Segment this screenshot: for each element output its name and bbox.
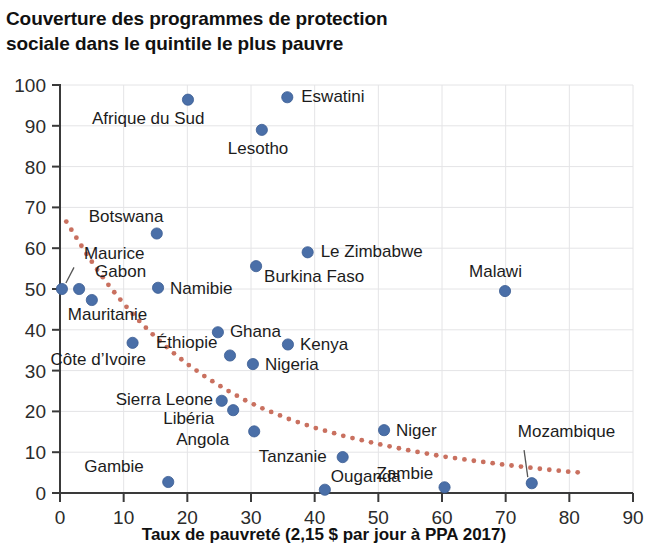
data-point-label: Botswana bbox=[89, 207, 164, 226]
trend-line-dot bbox=[369, 440, 374, 445]
trend-line-dot bbox=[415, 449, 420, 454]
trend-line-dot bbox=[286, 417, 291, 422]
data-point-marker[interactable] bbox=[282, 339, 293, 350]
data-point-marker[interactable] bbox=[182, 94, 193, 105]
y-tick-label: 40 bbox=[25, 320, 46, 341]
trend-line-dot bbox=[424, 451, 429, 456]
trend-line bbox=[64, 219, 580, 475]
trend-line-dot bbox=[194, 368, 199, 373]
data-point-marker[interactable] bbox=[127, 337, 138, 348]
trend-line-dot bbox=[471, 458, 476, 463]
trend-line-dot bbox=[462, 457, 467, 462]
y-tick-label: 30 bbox=[25, 361, 46, 382]
data-point-marker[interactable] bbox=[337, 451, 348, 462]
data-point-marker[interactable] bbox=[247, 358, 258, 369]
data-point-label: Lesotho bbox=[228, 139, 289, 158]
trend-line-dot bbox=[124, 304, 129, 309]
trend-line-dot bbox=[566, 469, 571, 474]
trend-line-dot bbox=[89, 259, 94, 264]
trend-line-dot bbox=[150, 332, 155, 337]
data-point-marker[interactable] bbox=[216, 395, 227, 406]
trend-line-dot bbox=[64, 219, 69, 224]
page-title: Couverture des programmes de protection … bbox=[6, 6, 546, 57]
trend-line-dot bbox=[164, 345, 169, 350]
trend-line-dot bbox=[234, 393, 239, 398]
trend-line-dot bbox=[143, 325, 148, 330]
trend-line-dot bbox=[378, 442, 383, 447]
data-point-marker[interactable] bbox=[249, 426, 260, 437]
data-point-marker[interactable] bbox=[152, 282, 163, 293]
trend-line-dot bbox=[95, 267, 100, 272]
data-point-marker[interactable] bbox=[499, 285, 510, 296]
data-point-label: Ouganda bbox=[331, 467, 401, 486]
data-point-marker[interactable] bbox=[56, 283, 67, 294]
data-point-label: Mozambique bbox=[518, 422, 615, 441]
data-point-marker[interactable] bbox=[256, 124, 267, 135]
trend-line-dot bbox=[186, 363, 191, 368]
trend-line-dot bbox=[210, 379, 215, 384]
trend-line-dot bbox=[157, 338, 162, 343]
data-point-marker[interactable] bbox=[439, 482, 450, 493]
data-point-label: Niger bbox=[396, 421, 437, 440]
data-point-label: Tanzanie bbox=[259, 447, 327, 466]
y-tick-label: 50 bbox=[25, 279, 46, 300]
trend-line-dot bbox=[443, 454, 448, 459]
y-axis-ticks: 0102030405060708090100 bbox=[14, 75, 60, 504]
data-point-label: Éthiopie bbox=[156, 333, 217, 352]
y-tick-label: 100 bbox=[14, 75, 46, 96]
trend-line-dot bbox=[106, 282, 111, 287]
trend-line-dot bbox=[490, 461, 495, 466]
trend-line-dot bbox=[500, 462, 505, 467]
x-axis-title: Taux de pauvreté (2,15 $ par jour à PPA … bbox=[0, 525, 648, 545]
trend-line-dot bbox=[547, 467, 552, 472]
data-point-label: Eswatini bbox=[301, 87, 364, 106]
trend-line-dot bbox=[481, 460, 486, 465]
trend-line-dot bbox=[295, 420, 300, 425]
data-point-marker[interactable] bbox=[224, 350, 235, 361]
data-point-label: Zambie bbox=[377, 464, 434, 483]
data-point-marker[interactable] bbox=[282, 92, 293, 103]
y-tick-label: 90 bbox=[25, 116, 46, 137]
data-point-marker[interactable] bbox=[526, 478, 537, 489]
trend-line-dot bbox=[118, 297, 123, 302]
trend-line-dot bbox=[509, 463, 514, 468]
trend-line-dot bbox=[341, 433, 346, 438]
data-point-marker[interactable] bbox=[212, 327, 223, 338]
y-tick-label: 20 bbox=[25, 401, 46, 422]
trend-line-dot bbox=[260, 406, 265, 411]
data-point-label: Gambie bbox=[84, 457, 144, 476]
trend-line-dot bbox=[74, 235, 79, 240]
data-point-marker[interactable] bbox=[319, 484, 330, 495]
plot-svg: 0102030405060708090100010203040506070809… bbox=[0, 0, 648, 560]
trend-line-dot bbox=[269, 410, 274, 415]
trend-line-dot bbox=[453, 456, 458, 461]
trend-line-dot bbox=[251, 402, 256, 407]
data-points: MauriceGabonMauritanieCôte d’IvoireBotsw… bbox=[51, 87, 616, 495]
data-point-label: Angola bbox=[176, 430, 229, 449]
data-point-marker[interactable] bbox=[163, 476, 174, 487]
data-point-marker[interactable] bbox=[74, 283, 85, 294]
trend-line-dot bbox=[218, 384, 223, 389]
trend-line-dot bbox=[84, 251, 89, 256]
data-point-marker[interactable] bbox=[86, 294, 97, 305]
y-tick-label: 0 bbox=[35, 483, 46, 504]
data-point-marker[interactable] bbox=[250, 261, 261, 272]
trend-line-dot bbox=[332, 431, 337, 436]
data-point-marker[interactable] bbox=[228, 405, 239, 416]
trend-line-dot bbox=[79, 243, 84, 248]
data-point-marker[interactable] bbox=[302, 247, 313, 258]
data-point-marker[interactable] bbox=[151, 228, 162, 239]
trend-line-dot bbox=[304, 423, 309, 428]
trend-line-dot bbox=[112, 290, 117, 295]
trend-line-dot bbox=[556, 468, 561, 473]
trend-line-dot bbox=[406, 448, 411, 453]
data-point-label: Côte d’Ivoire bbox=[51, 350, 146, 369]
trend-line-dot bbox=[137, 318, 142, 323]
data-point-label: Kenya bbox=[300, 335, 349, 354]
label-leader-line bbox=[66, 267, 74, 283]
data-point-label: Nigeria bbox=[265, 355, 319, 374]
data-point-marker[interactable] bbox=[378, 425, 389, 436]
trend-line-dot bbox=[359, 438, 364, 443]
trend-line-dot bbox=[179, 357, 184, 362]
y-tick-label: 10 bbox=[25, 442, 46, 463]
